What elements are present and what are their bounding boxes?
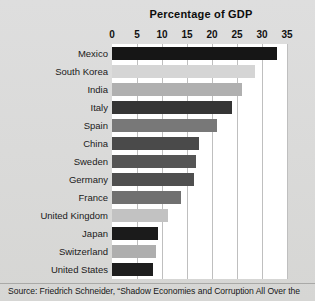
bar-south-korea [112, 65, 255, 78]
bar-row [112, 263, 287, 276]
bar-japan [112, 227, 158, 240]
x-tick-label-0: 0 [109, 29, 115, 40]
category-label-india: India [0, 83, 108, 96]
chart-figure: Percentage of GDP 05101520253035 MexicoS… [0, 0, 315, 301]
bar-switzerland [112, 245, 156, 258]
footer-divider [0, 283, 315, 284]
plot-area [112, 44, 287, 279]
x-tick-label-20: 20 [206, 29, 217, 40]
bar-row [112, 173, 287, 186]
bar-row [112, 83, 287, 96]
bar-row [112, 47, 287, 60]
bar-spain [112, 119, 217, 132]
bar-italy [112, 101, 232, 114]
x-tick-label-25: 25 [231, 29, 242, 40]
category-label-switzerland: Switzerland [0, 245, 108, 258]
bar-row [112, 191, 287, 204]
x-axis-tick-labels: 05101520253035 [0, 29, 315, 42]
x-tick-label-15: 15 [181, 29, 192, 40]
bar-united-states [112, 263, 153, 276]
category-label-united-states: United States [0, 263, 108, 276]
bar-row [112, 101, 287, 114]
bar-row [112, 245, 287, 258]
bar-united-kingdom [112, 209, 168, 222]
x-tick-label-10: 10 [156, 29, 167, 40]
category-axis-labels: MexicoSouth KoreaIndiaItalySpainChinaSwe… [0, 44, 108, 279]
bar-row [112, 119, 287, 132]
category-label-japan: Japan [0, 227, 108, 240]
category-label-germany: Germany [0, 173, 108, 186]
source-note: Source: Friedrich Schneider, “Shadow Eco… [8, 286, 313, 296]
category-label-sweden: Sweden [0, 155, 108, 168]
x-tick-label-5: 5 [134, 29, 140, 40]
bar-row [112, 65, 287, 78]
bar-mexico [112, 47, 277, 60]
category-label-mexico: Mexico [0, 47, 108, 60]
bar-sweden [112, 155, 196, 168]
x-tick-label-35: 35 [281, 29, 292, 40]
bar-row [112, 227, 287, 240]
chart-title: Percentage of GDP [113, 8, 289, 20]
category-label-spain: Spain [0, 119, 108, 132]
bar-germany [112, 173, 194, 186]
bar-india [112, 83, 242, 96]
bar-row [112, 209, 287, 222]
gridline-35 [287, 44, 288, 279]
bar-china [112, 137, 199, 150]
bar-france [112, 191, 181, 204]
category-label-united-kingdom: United Kingdom [0, 209, 108, 222]
category-label-south-korea: South Korea [0, 65, 108, 78]
bar-row [112, 155, 287, 168]
category-label-china: China [0, 137, 108, 150]
bar-row [112, 137, 287, 150]
category-label-italy: Italy [0, 101, 108, 114]
x-tick-label-30: 30 [256, 29, 267, 40]
category-label-france: France [0, 191, 108, 204]
